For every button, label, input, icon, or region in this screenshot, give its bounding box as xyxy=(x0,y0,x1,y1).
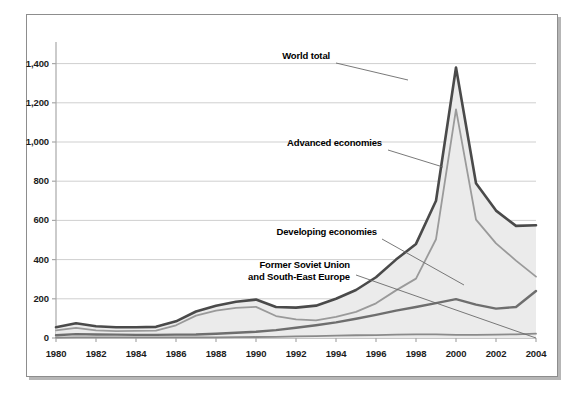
y-axis-tick-label: 600 xyxy=(33,214,49,225)
y-axis-tick-label: 200 xyxy=(33,293,49,304)
series-annotation-line: and South-East Europe xyxy=(90,271,350,283)
y-axis-tick-label: 0 xyxy=(44,332,49,343)
series-annotation-line: Former Soviet Union xyxy=(90,259,350,271)
chart-figure: 02004006008001,0001,2001,400198019821984… xyxy=(0,0,575,398)
y-axis-tick-label: 1,200 xyxy=(26,97,49,108)
y-axis-tick-label: 800 xyxy=(33,175,49,186)
y-axis-tick-label: 1,400 xyxy=(26,58,49,69)
series-annotation-line: Developing economies xyxy=(117,226,377,238)
y-axis-tick-label: 1,000 xyxy=(26,136,49,147)
x-axis-tick-label: 2004 xyxy=(511,348,561,359)
leader-line-world-total xyxy=(336,63,408,80)
y-axis-tick-label: 400 xyxy=(33,254,49,265)
series-annotation-developing-economies: Developing economies xyxy=(117,226,377,238)
series-annotation-line: World total xyxy=(70,50,330,62)
series-annotation-line: Advanced economies xyxy=(122,137,382,149)
series-annotation-world-total: World total xyxy=(70,50,330,62)
series-annotation-advanced-economies: Advanced economies xyxy=(122,137,382,149)
leader-line-advanced-economies xyxy=(388,150,443,167)
series-annotation-former-soviet-union: Former Soviet Unionand South-East Europe xyxy=(90,259,350,283)
